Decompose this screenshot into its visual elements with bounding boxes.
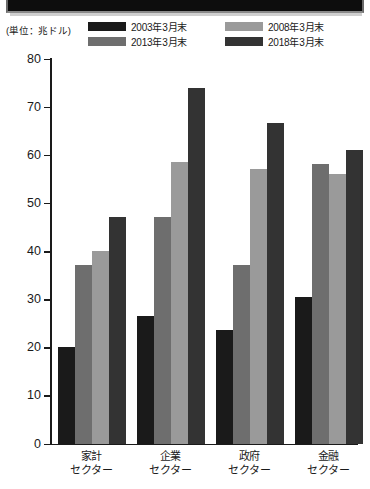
y-tick-label: 20 bbox=[27, 340, 41, 354]
legend-item: 2013年3月末 bbox=[88, 34, 225, 49]
category-label-line: 金融 bbox=[295, 450, 363, 464]
bar bbox=[154, 217, 171, 443]
y-tick-mark bbox=[44, 444, 50, 446]
bar bbox=[329, 174, 346, 444]
bar bbox=[109, 217, 126, 443]
legend-swatch-icon bbox=[88, 22, 126, 31]
bar bbox=[216, 330, 233, 443]
bar-group bbox=[58, 59, 126, 444]
bar bbox=[188, 88, 205, 443]
x-axis-category-label: 企業セクター bbox=[137, 450, 205, 477]
y-tick-label: 50 bbox=[27, 196, 41, 210]
banner-shadow bbox=[10, 13, 362, 16]
bar bbox=[75, 265, 92, 443]
y-tick-mark bbox=[44, 251, 50, 253]
bar bbox=[267, 123, 284, 443]
y-axis-unit-label: (単位：兆ドル) bbox=[6, 23, 71, 37]
chart-plot-area: 01020304050607080 bbox=[50, 58, 358, 445]
bar bbox=[295, 297, 312, 444]
y-tick-mark bbox=[44, 107, 50, 109]
bars-layer bbox=[52, 59, 358, 444]
y-tick-mark bbox=[44, 395, 50, 397]
bar bbox=[92, 251, 109, 444]
category-label-line: セクター bbox=[295, 464, 363, 478]
top-black-banner bbox=[6, 0, 364, 13]
y-tick-label: 70 bbox=[27, 100, 41, 114]
bar bbox=[312, 164, 329, 443]
y-tick-label: 60 bbox=[27, 148, 41, 162]
x-axis-category-label: 家計セクター bbox=[58, 450, 126, 477]
legend-label: 2008年3月末 bbox=[268, 19, 324, 34]
x-axis-category-label: 金融セクター bbox=[295, 450, 363, 477]
category-label-line: 政府 bbox=[216, 450, 284, 464]
y-tick-mark bbox=[44, 155, 50, 157]
y-tick-mark bbox=[44, 59, 50, 61]
y-tick-mark bbox=[44, 347, 50, 349]
y-tick-label: 30 bbox=[27, 292, 41, 306]
bar bbox=[58, 347, 75, 443]
category-label-line: 企業 bbox=[137, 450, 205, 464]
y-tick-mark bbox=[44, 299, 50, 301]
legend-label: 2018年3月末 bbox=[268, 34, 324, 49]
legend-label: 2003年3月末 bbox=[131, 19, 187, 34]
category-label-line: セクター bbox=[137, 464, 205, 478]
bar-group bbox=[216, 59, 284, 444]
y-tick-label: 0 bbox=[34, 437, 41, 451]
legend-label: 2013年3月末 bbox=[131, 34, 187, 49]
x-axis-category-label: 政府セクター bbox=[216, 450, 284, 477]
category-label-line: セクター bbox=[58, 464, 126, 478]
y-tick-label: 80 bbox=[27, 52, 41, 66]
bar-group bbox=[295, 59, 363, 444]
x-axis-line bbox=[50, 444, 358, 446]
legend-swatch-icon bbox=[88, 37, 126, 46]
legend-item: 2003年3月末 bbox=[88, 19, 225, 34]
category-label-line: セクター bbox=[216, 464, 284, 478]
bar bbox=[137, 316, 154, 444]
bar-group bbox=[137, 59, 205, 444]
legend-swatch-icon bbox=[225, 22, 263, 31]
category-label-line: 家計 bbox=[58, 450, 126, 464]
y-tick-mark bbox=[44, 203, 50, 205]
chart-legend: 2003年3月末2008年3月末2013年3月末2018年3月末 bbox=[88, 19, 358, 49]
y-tick-label: 40 bbox=[27, 244, 41, 258]
bar bbox=[171, 162, 188, 444]
bar bbox=[233, 265, 250, 443]
y-tick-label: 10 bbox=[27, 388, 41, 402]
bar bbox=[250, 169, 267, 443]
bar bbox=[346, 150, 363, 444]
legend-swatch-icon bbox=[225, 37, 263, 46]
legend-item: 2018年3月末 bbox=[225, 34, 362, 49]
legend-item: 2008年3月末 bbox=[225, 19, 362, 34]
